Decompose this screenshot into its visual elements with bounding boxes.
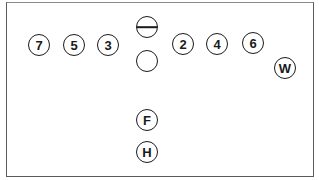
player-6: 6 xyxy=(242,32,264,54)
player-h: H xyxy=(136,141,158,163)
player-7: 7 xyxy=(28,34,50,56)
center-line-icon xyxy=(137,26,157,28)
player-empty xyxy=(136,50,158,72)
player-3: 3 xyxy=(97,34,119,56)
player-5: 5 xyxy=(63,34,85,56)
player-2: 2 xyxy=(172,33,194,55)
player-w: W xyxy=(274,57,296,79)
formation-field xyxy=(6,2,314,177)
player-4: 4 xyxy=(206,33,228,55)
player-f: F xyxy=(136,109,158,131)
player-center xyxy=(136,16,158,38)
